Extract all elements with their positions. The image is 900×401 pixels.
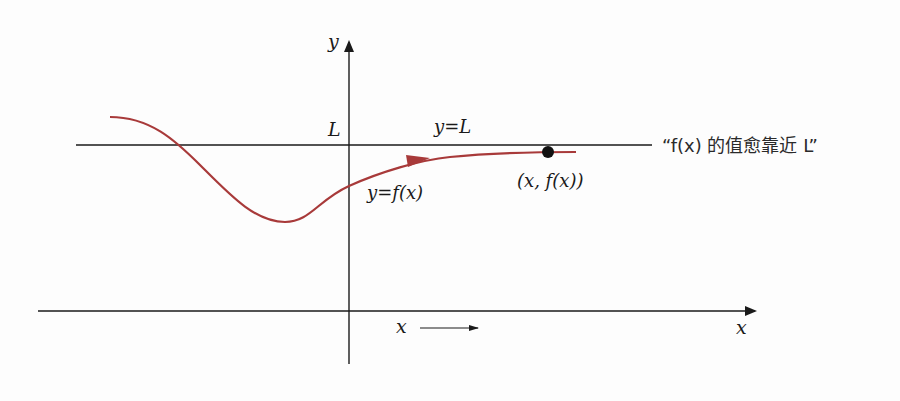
limit-diagram-svg: --> y x L y=L y=f(x) (x, f(x)) x “f(x) 的…	[0, 0, 900, 401]
point-label: (x, f(x))	[517, 170, 584, 191]
x-axis-label: x	[736, 316, 747, 338]
y-axis-label: y	[327, 30, 339, 52]
curve-label: y=f(x)	[366, 182, 423, 203]
asymptote-label-line: y=L	[433, 116, 471, 137]
limit-annotation: “f(x) 的值愈靠近 L”	[662, 135, 818, 156]
diagram-canvas: --> y x L y=L y=f(x) (x, f(x)) x “f(x) 的…	[0, 0, 900, 401]
function-curve	[110, 117, 576, 222]
direction-hint-label: x	[396, 315, 407, 337]
point-marker	[542, 146, 554, 158]
asymptote-label-left: L	[327, 118, 341, 140]
